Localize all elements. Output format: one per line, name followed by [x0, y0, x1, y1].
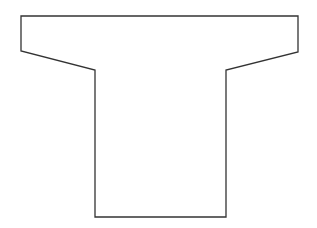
diagram-canvas — [0, 0, 317, 228]
t-shape-outline — [21, 16, 298, 217]
